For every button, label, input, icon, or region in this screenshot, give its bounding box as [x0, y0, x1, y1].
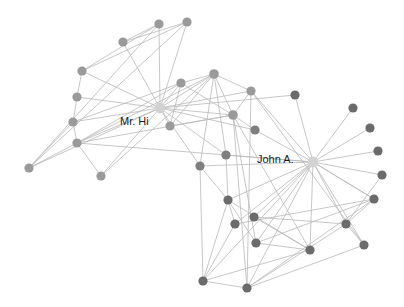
graph-node[interactable]: [348, 103, 357, 112]
graph-node[interactable]: [246, 86, 255, 95]
graph-node[interactable]: [290, 90, 299, 99]
node-label-john-a: John A.: [257, 153, 294, 165]
graph-node[interactable]: [154, 19, 163, 28]
graph-node[interactable]: [72, 138, 81, 147]
network-graph-svg: Mr. HiJohn A.: [0, 0, 404, 307]
graph-node-mr-hi[interactable]: [155, 103, 166, 114]
graph-node[interactable]: [77, 66, 86, 75]
graph-node[interactable]: [341, 219, 350, 228]
graph-node[interactable]: [251, 238, 260, 247]
node-label-mr-hi: Mr. Hi: [120, 115, 149, 127]
graph-node[interactable]: [182, 17, 191, 26]
graph-node[interactable]: [198, 276, 207, 285]
graph-node[interactable]: [305, 245, 314, 254]
graph-node[interactable]: [118, 37, 127, 46]
graph-node[interactable]: [72, 92, 81, 101]
graph-node[interactable]: [223, 195, 232, 204]
graph-node[interactable]: [209, 69, 219, 79]
graph-node[interactable]: [221, 150, 230, 159]
graph-node[interactable]: [165, 121, 174, 130]
graph-node[interactable]: [176, 78, 185, 87]
graph-node[interactable]: [377, 170, 386, 179]
graph-node[interactable]: [369, 194, 378, 203]
graph-node[interactable]: [228, 110, 238, 120]
network-graph-canvas: Mr. HiJohn A.: [0, 0, 404, 307]
graph-node[interactable]: [249, 212, 258, 221]
graph-node[interactable]: [242, 283, 251, 292]
graph-node[interactable]: [195, 161, 204, 170]
graph-node[interactable]: [365, 123, 374, 132]
graph-node[interactable]: [230, 219, 239, 228]
graph-node[interactable]: [373, 146, 382, 155]
graph-node[interactable]: [250, 125, 259, 134]
graph-node[interactable]: [24, 163, 33, 172]
graph-node[interactable]: [68, 117, 77, 126]
graph-node[interactable]: [96, 171, 105, 180]
graph-node[interactable]: [359, 240, 368, 249]
graph-node-john-a[interactable]: [308, 157, 319, 168]
